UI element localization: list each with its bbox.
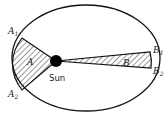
label-b1: B1 <box>152 45 163 56</box>
region-a-label: A <box>26 57 34 67</box>
label-a1: A1 <box>7 26 18 37</box>
sun-label: Sun <box>49 73 65 83</box>
sun-icon <box>50 55 62 67</box>
region-b-label: B <box>122 58 130 68</box>
label-a2: A2 <box>7 89 19 100</box>
region-b <box>56 52 151 68</box>
label-b2: B2 <box>152 66 164 77</box>
kepler-diagram: A1 A2 B1 B2 A B Sun <box>0 0 167 116</box>
